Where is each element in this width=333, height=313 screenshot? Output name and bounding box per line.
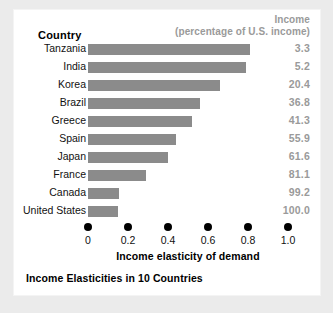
x-axis-label: Income elasticity of demand — [88, 250, 288, 262]
income-header-line1: Income — [175, 14, 310, 26]
tick-dot-icon — [244, 223, 252, 231]
tick-dot-icon — [284, 223, 292, 231]
income-header-line2: (percentage of U.S. income) — [175, 26, 310, 38]
chart-row: India5.2 — [14, 59, 320, 77]
chart-caption: Income Elasticities in 10 Countries — [26, 272, 203, 284]
bar-track — [88, 170, 288, 181]
tick-dot-icon — [164, 223, 172, 231]
country-label: Spain — [14, 132, 86, 144]
chart-row: Spain55.9 — [14, 131, 320, 149]
country-column-header: Country — [38, 29, 82, 41]
tick-label: 0.4 — [148, 234, 188, 246]
elasticity-bar — [88, 170, 146, 181]
elasticity-bar — [88, 80, 220, 91]
income-value: 41.3 — [289, 114, 310, 126]
chart-rows: Tanzania3.3India5.2Korea20.4Brazil36.8Gr… — [14, 41, 320, 221]
income-value: 99.2 — [289, 186, 310, 198]
chart-row: France81.1 — [14, 167, 320, 185]
country-label: Tanzania — [14, 42, 86, 54]
chart-card: Income (percentage of U.S. income) Count… — [14, 10, 320, 295]
elasticity-bar — [88, 98, 200, 109]
income-value: 20.4 — [289, 78, 310, 90]
tick-label: 0.8 — [228, 234, 268, 246]
bar-track — [88, 44, 288, 55]
country-label: France — [14, 168, 86, 180]
country-label: Brazil — [14, 96, 86, 108]
tick-label: 0 — [68, 234, 108, 246]
bar-track — [88, 80, 288, 91]
bar-track — [88, 152, 288, 163]
tick-label: 0.6 — [188, 234, 228, 246]
chart-row: Greece41.3 — [14, 113, 320, 131]
bar-track — [88, 116, 288, 127]
income-value: 61.6 — [289, 150, 310, 162]
chart-row: Tanzania3.3 — [14, 41, 320, 59]
tick-label: 0.2 — [108, 234, 148, 246]
country-label: Korea — [14, 78, 86, 90]
elasticity-bar — [88, 116, 192, 127]
income-value: 81.1 — [289, 168, 310, 180]
elasticity-bar — [88, 134, 176, 145]
chart-row: United States100.0 — [14, 203, 320, 221]
country-label: India — [14, 60, 86, 72]
tick-dot-icon — [204, 223, 212, 231]
bar-track — [88, 134, 288, 145]
bar-track — [88, 62, 288, 73]
chart-row: Korea20.4 — [14, 77, 320, 95]
income-value: 3.3 — [295, 42, 310, 54]
chart-row: Japan61.6 — [14, 149, 320, 167]
income-column-header: Income (percentage of U.S. income) — [175, 14, 310, 38]
country-label: United States — [14, 204, 86, 216]
tick-dot-icon — [84, 223, 92, 231]
bar-track — [88, 98, 288, 109]
chart-row: Canada99.2 — [14, 185, 320, 203]
country-label: Japan — [14, 150, 86, 162]
elasticity-bar — [88, 44, 250, 55]
income-value: 5.2 — [295, 60, 310, 72]
tick-label: 1.0 — [268, 234, 308, 246]
elasticity-bar — [88, 206, 118, 217]
elasticity-bar — [88, 188, 119, 199]
bar-track — [88, 188, 288, 199]
country-label: Greece — [14, 114, 86, 126]
income-value: 100.0 — [283, 204, 310, 216]
income-value: 55.9 — [289, 132, 310, 144]
elasticity-bar — [88, 62, 246, 73]
country-label: Canada — [14, 186, 86, 198]
elasticity-bar — [88, 152, 168, 163]
income-value: 36.8 — [289, 96, 310, 108]
bar-track — [88, 206, 288, 217]
chart-row: Brazil36.8 — [14, 95, 320, 113]
tick-dot-icon — [124, 223, 132, 231]
